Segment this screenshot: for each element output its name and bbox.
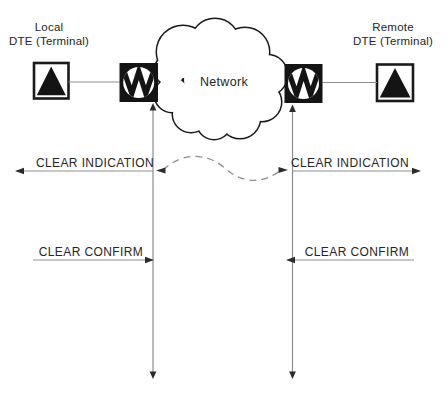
clear-confirm-left-arrow: CLEAR CONFIRM: [33, 245, 154, 263]
right-arrowhead-icon: [279, 167, 289, 173]
local-dte-label: Local DTE (Terminal): [9, 21, 89, 47]
clear-indication-left-label: CLEAR INDICATION: [36, 156, 154, 170]
clear-confirm-left-label: CLEAR CONFIRM: [39, 245, 144, 259]
up-arrowhead-icon: [150, 103, 157, 111]
down-arrowhead-icon: [289, 372, 296, 380]
down-arrowhead-icon: [150, 372, 157, 380]
left-arrowhead-icon: [15, 168, 24, 174]
local-dte-label-line2: DTE (Terminal): [9, 35, 89, 47]
clear-indication-right-label: CLEAR INDICATION: [291, 156, 409, 170]
local-timeline: [150, 103, 157, 379]
remote-terminal-icon: [377, 65, 413, 102]
local-modem-icon: [120, 63, 159, 102]
remote-dte-label: Remote DTE (Terminal): [353, 21, 433, 47]
local-terminal-icon: [34, 63, 69, 99]
network-label: Network: [200, 75, 248, 89]
remote-modem-icon: [285, 64, 323, 103]
clear-sequence-diagram: Network Local DTE (Terminal) Remote DTE …: [0, 0, 447, 400]
remote-dte-label-line2: DTE (Terminal): [353, 35, 433, 47]
up-arrowhead-icon: [289, 105, 296, 113]
clear-indication-left-arrow: CLEAR INDICATION: [15, 156, 154, 174]
network-cloud: Network: [155, 19, 287, 139]
clear-indication-right-arrow: CLEAR INDICATION: [291, 156, 421, 174]
right-arrowhead-icon: [412, 168, 421, 174]
local-dte-label-line1: Local: [35, 21, 64, 33]
network-transit-dashed-arrow: [156, 156, 288, 180]
clear-confirm-right-arrow: CLEAR CONFIRM: [286, 245, 414, 263]
clear-confirm-right-label: CLEAR CONFIRM: [305, 245, 410, 259]
diagram-canvas: Network Local DTE (Terminal) Remote DTE …: [0, 0, 447, 400]
left-arrowhead-icon: [156, 168, 166, 174]
left-arrowhead-icon: [286, 257, 295, 263]
remote-timeline: [289, 105, 296, 380]
remote-dte-label-line1: Remote: [372, 21, 413, 33]
